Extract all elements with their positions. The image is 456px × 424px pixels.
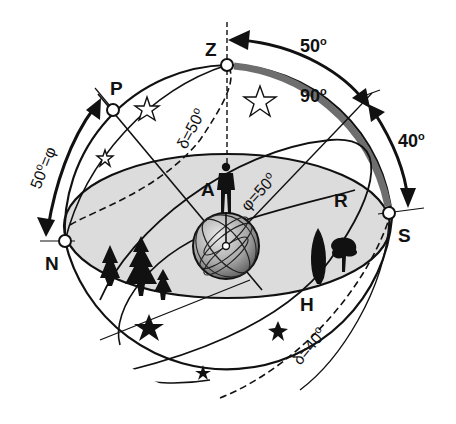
horizon-label: H: [300, 294, 314, 315]
zenith-point: [221, 59, 233, 71]
south-label: S: [398, 225, 411, 246]
equator-label: R: [334, 190, 348, 211]
pole-label: P: [110, 78, 123, 99]
filled-star-icon: [134, 314, 288, 380]
south-point: [383, 207, 395, 219]
observer-label: A: [201, 179, 215, 200]
north-label: N: [45, 253, 59, 274]
zenith-label: Z: [205, 39, 217, 60]
angle-50-label: 50o: [300, 35, 327, 56]
declination-40-label: δ=40o: [288, 323, 330, 368]
declination-50-label: δ=50o: [172, 105, 209, 151]
pole-point: [107, 104, 119, 116]
angle-40-label: 40o: [398, 130, 425, 151]
latitude-arc-label: 50o=φ: [25, 144, 59, 192]
celestial-sphere-diagram: Z P N S A H R 50o 90o 40o 50o=φ δ=50o φ=…: [0, 0, 456, 424]
north-point: [59, 235, 71, 247]
